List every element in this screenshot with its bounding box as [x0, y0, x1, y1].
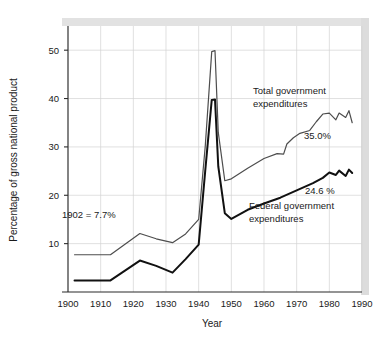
expenditures-line-chart: 1020304050 19001910192019301940195019601…: [0, 0, 391, 340]
total-series-end-value: 35.0%: [304, 130, 331, 141]
x-tick-label: 1910: [90, 298, 111, 309]
y-tick-label: 30: [48, 141, 59, 152]
x-axis-title: Year: [202, 318, 223, 329]
x-tick-label: 1900: [57, 298, 78, 309]
plot-shadow-top: [62, 18, 369, 26]
x-tick-label: 1930: [155, 298, 176, 309]
federal-series-label-line1: Federal government: [249, 200, 334, 211]
y-tick-label: 40: [48, 93, 59, 104]
y-tick-label: 50: [48, 45, 59, 56]
x-tick-label: 1940: [188, 298, 209, 309]
x-tick-label: 1950: [221, 298, 242, 309]
x-tick-label: 1980: [319, 298, 340, 309]
x-tick-label: 1970: [286, 298, 307, 309]
x-tick-label: 1990: [351, 298, 372, 309]
total-series-label-line1: Total government: [253, 85, 326, 96]
federal-series-end-value: 24.6 %: [305, 185, 335, 196]
chart-figure: 1020304050 19001910192019301940195019601…: [0, 0, 391, 340]
federal-series-label-line2: expenditures: [249, 213, 304, 224]
total-series-label-line2: expenditures: [253, 98, 308, 109]
y-axis-title: Percentage of gross national product: [8, 78, 19, 242]
start-value-note: 1902 = 7.7%: [62, 209, 116, 220]
y-tick-label: 20: [48, 190, 59, 201]
y-tick-label: 10: [48, 238, 59, 249]
x-tick-label: 1960: [253, 298, 274, 309]
x-tick-label: 1920: [123, 298, 144, 309]
